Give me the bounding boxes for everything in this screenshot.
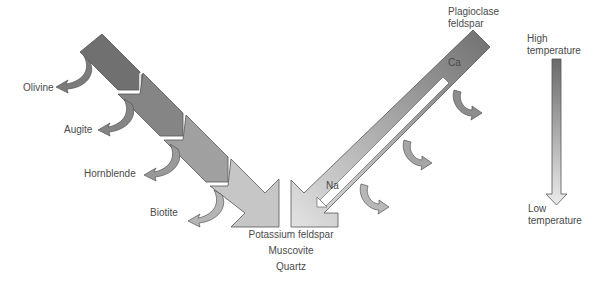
product-quartz: Quartz bbox=[236, 261, 346, 273]
mineral-label-augite: Augite bbox=[64, 124, 92, 136]
olivine-branch-arrow bbox=[56, 56, 92, 93]
high-temperature-label-line1: High bbox=[527, 33, 548, 45]
high-temperature-label-line2: temperature bbox=[527, 45, 581, 57]
plagioclase-branch-arrow-3 bbox=[360, 184, 389, 214]
plagioclase-label-line2: feldspar bbox=[448, 18, 484, 30]
mineral-label-olivine: Olivine bbox=[23, 82, 54, 94]
low-temperature-label-line1: Low bbox=[528, 203, 546, 215]
mineral-label-hornblende: Hornblende bbox=[84, 168, 136, 180]
plagioclase-branch-arrow-2 bbox=[403, 140, 432, 170]
product-potassium-feldspar: Potassium feldspar bbox=[236, 229, 346, 241]
biotite-branch-arrow bbox=[188, 190, 224, 227]
augite-branch-arrow bbox=[98, 99, 134, 136]
low-temperature-label-line2: temperature bbox=[528, 215, 582, 227]
mineral-label-biotite: Biotite bbox=[150, 207, 178, 219]
plagioclase-branch-arrow-1 bbox=[453, 90, 482, 120]
calcium-label: Ca bbox=[448, 57, 461, 69]
temperature-arrow bbox=[546, 59, 567, 205]
sodium-label: Na bbox=[326, 180, 339, 192]
hornblende-branch-arrow bbox=[144, 144, 180, 181]
product-muscovite: Muscovite bbox=[236, 245, 346, 257]
plagioclase-label-line1: Plagioclase bbox=[448, 6, 499, 18]
